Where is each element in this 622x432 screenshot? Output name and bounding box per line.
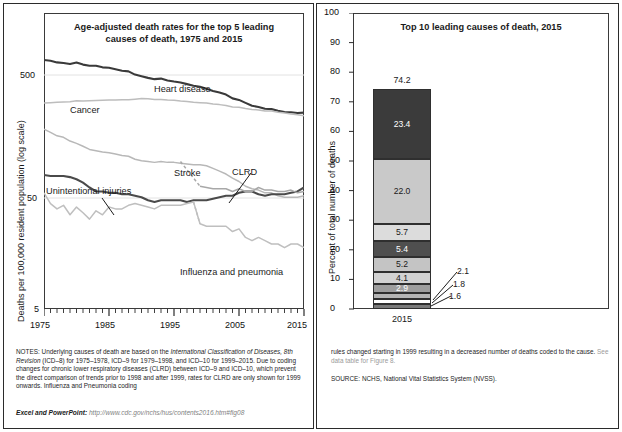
bar-total-label: 74.2 — [373, 75, 431, 85]
right-chart-ytick-30: 30 — [330, 214, 340, 224]
right-chart-ytick-40: 40 — [330, 185, 340, 195]
left-chart-xtick-1985: 1985 — [95, 320, 115, 330]
bar-segment-value: 22.0 — [394, 186, 411, 196]
bar-segment-value: 2.9 — [396, 283, 408, 293]
bar-segment-suicide[interactable] — [373, 304, 431, 309]
bar-segment-influenza-and-pneumonia[interactable] — [373, 293, 431, 299]
left-chart-ylabel: Deaths per 100,000 resident population (… — [16, 120, 26, 322]
excel-label: Excel and PowerPoint: — [16, 409, 89, 416]
right-chart-ytick-0: 0 — [330, 303, 335, 313]
right-notes-paragraph: rules changed starting in 1999 resulting… — [331, 348, 609, 365]
right-chart-ytick-80: 80 — [330, 66, 340, 76]
left-panel: Deaths per 100,000 resident population (… — [3, 3, 314, 429]
bar-segment-clrd[interactable]: 5.7 — [373, 224, 431, 241]
bar-segment-stroke[interactable]: 5.2 — [373, 257, 431, 272]
bar-segment-nephritis-nephrotic-syndrome-and-nephrosis[interactable] — [373, 299, 431, 304]
left-chart-xtick-2015: 2015 — [287, 320, 307, 330]
right-chart-ytick-90: 90 — [330, 37, 340, 47]
left-chart-xaxis-ticks — [44, 309, 306, 317]
left-notes-paragraph: NOTES: Underlying causes of death are ba… — [16, 348, 306, 391]
right-chart-ytick-100: 100 — [324, 7, 339, 17]
bar-segment-value: 5.2 — [396, 259, 408, 269]
stacked-bar-2015[interactable]: 2.94.15.25.45.722.023.4 — [373, 13, 431, 309]
right-notes-text: rules changed starting in 1999 resulting… — [331, 348, 597, 355]
right-chart-ytick-20: 20 — [330, 244, 340, 254]
curve-label-influenza-and-pneumonia: Influenza and pneumonia — [180, 267, 283, 277]
bar-xaxis-label-2015: 2015 — [373, 314, 431, 324]
bar-segment-value: 4.1 — [396, 273, 408, 283]
figure-root: Deaths per 100,000 resident population (… — [0, 0, 622, 432]
right-chart-ytick-60: 60 — [330, 125, 340, 135]
right-chart-yaxis-ticks — [347, 13, 355, 310]
right-panel: Percent of total number of deaths Top 10… — [316, 3, 619, 429]
curve-label-heart-disease: Heart disease — [154, 84, 211, 94]
excel-and-powerpoint-line: Excel and PowerPoint: http://www.cdc.gov… — [16, 408, 308, 417]
callout-value-influenza: 2.1 — [457, 266, 469, 276]
right-chart-ytick-10: 10 — [330, 273, 340, 283]
curve-label-cancer: Cancer — [70, 105, 100, 115]
left-chart-ytick-500: 500 — [20, 70, 35, 80]
excel-url-link[interactable]: http://www.cdc.gov/nchs/hus/contents2016… — [89, 409, 244, 416]
bar-segment-cancer[interactable]: 22.0 — [373, 159, 431, 224]
bar-segment-value: 23.4 — [394, 119, 411, 129]
right-chart-ytick-70: 70 — [330, 96, 340, 106]
bar-segment-unintentional-injuries[interactable]: 5.4 — [373, 241, 431, 257]
curve-label-clrd: CLRD — [232, 167, 257, 177]
left-chart-xtick-1995: 1995 — [160, 320, 180, 330]
left-chart-ytick-50: 50 — [27, 193, 37, 203]
bar-segment-heart-disease[interactable]: 23.4 — [373, 89, 431, 158]
bar-segment-diabetes-mellitus[interactable]: 2.9 — [373, 284, 431, 293]
callout-value-nephritis: 1.8 — [453, 279, 465, 289]
bar-segment-value: 5.4 — [396, 244, 408, 254]
right-chart-ytick-50: 50 — [330, 155, 340, 165]
callout-value-suicide: 1.6 — [449, 291, 461, 301]
left-chart-xtick-1975: 1975 — [30, 320, 50, 330]
left-chart-series-canvas — [44, 13, 304, 309]
notes-text-a: NOTES: Underlying causes of death are ba… — [16, 348, 171, 355]
curve-label-stroke: Stroke — [174, 168, 201, 178]
left-chart-xtick-2005: 2005 — [225, 320, 245, 330]
bar-segment-value: 5.7 — [396, 227, 408, 237]
curve-label-unintentional-injuries: Unintentional injuries — [46, 186, 131, 196]
left-chart-ytick-5: 5 — [34, 304, 39, 314]
bar-segment-alzheimer-s-disease[interactable]: 4.1 — [373, 272, 431, 284]
source-line: SOURCE: NCHS, National Vital Statistics … — [331, 375, 609, 384]
notes-text-b: (ICD–8) for 1975–1978, ICD–9 for 1979–19… — [16, 357, 301, 390]
